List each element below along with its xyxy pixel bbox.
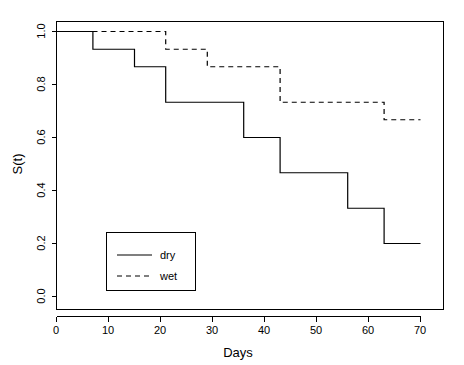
data-curves: [57, 32, 421, 244]
x-tick-label: 10: [102, 324, 114, 336]
y-tick-label: 0.0: [35, 288, 47, 303]
y-tick-label: 0.4: [35, 182, 47, 197]
x-tick-label: 50: [310, 324, 322, 336]
x-tick-label: 60: [362, 324, 374, 336]
x-tick-label: 20: [154, 324, 166, 336]
x-tick-label: 70: [414, 324, 426, 336]
x-tick-label: 40: [258, 324, 270, 336]
x-axis-title: Days: [223, 345, 253, 360]
x-tick-label: 30: [206, 324, 218, 336]
legend-label-dry: dry: [160, 249, 176, 261]
y-axis: 0.0 0.2 0.4 0.6 0.8 1.0 S(t): [10, 23, 57, 303]
survival-plot-canvas: 0.0 0.2 0.4 0.6 0.8 1.0 S(t) 0 10 20 30 …: [0, 0, 464, 365]
x-tick-label: 0: [53, 324, 59, 336]
legend-label-wet: wet: [159, 270, 177, 282]
y-tick-label: 1.0: [35, 23, 47, 38]
y-tick-label: 0.8: [35, 76, 47, 91]
series-line-wet: [57, 32, 421, 120]
y-axis-title: S(t): [10, 154, 25, 175]
legend-frame: [107, 233, 196, 291]
x-axis: 0 10 20 30 40 50 60 70 Days: [53, 317, 426, 361]
y-tick-label: 0.2: [35, 235, 47, 250]
legend: dry wet: [107, 233, 196, 291]
survival-plot-figure: 0.0 0.2 0.4 0.6 0.8 1.0 S(t) 0 10 20 30 …: [0, 0, 464, 365]
y-tick-label: 0.6: [35, 129, 47, 144]
series-line-dry: [57, 32, 421, 244]
